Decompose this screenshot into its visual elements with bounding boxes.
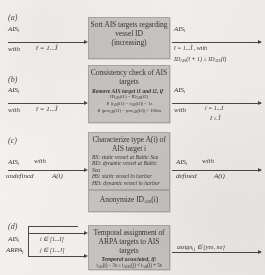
output-label-c-with: with — [202, 157, 214, 165]
output-label-c-symbol: AISi — [176, 158, 187, 168]
arrowhead-c-in — [84, 168, 88, 172]
box-title-line3: (increasing) — [89, 38, 169, 47]
output-label-c-value: A(i) — [214, 172, 225, 180]
output-label-b-symbol: AISi — [174, 86, 185, 96]
arrow-line-a-out — [172, 42, 261, 43]
process-box-temporal-assignment[interactable]: Temporal assignment of ARPA targets to A… — [88, 225, 170, 270]
input-label-c-with: with — [34, 157, 46, 165]
arrow-line-a-in — [8, 42, 86, 43]
arrow-line-d-in1 — [28, 233, 86, 234]
box-eq-3: ∧ |posAIS(i1) − posAIS(i2)| < 100m — [89, 108, 169, 115]
arrow-line-c-out — [172, 170, 261, 171]
input-label-a-with: with — [8, 45, 20, 53]
output-label-a-condition: IDAIS(ĩ + 1) ≥ IDAIS(ĩ) — [174, 55, 226, 65]
input-label-a-symbol: AISĩ — [8, 25, 19, 35]
arrowhead-d-in1 — [84, 231, 88, 235]
arrow-line-b-in — [8, 103, 86, 104]
arrow-top-d-bracket — [28, 226, 78, 227]
box-eq-1: IDAIS(i1) = IDAIS(i2) — [89, 94, 169, 101]
panel-label-d: (d) — [8, 222, 17, 231]
arrowhead-d-in2 — [84, 254, 88, 258]
box-title-line1: Temporal assignment of — [89, 226, 169, 237]
arrowhead-a-in — [84, 40, 88, 44]
input-label-b-range: ĩ = 1...Ĩ — [36, 105, 57, 113]
output-label-b-range: i = 1...I — [205, 104, 223, 112]
input-range-d-arpa: j ∈ [1...J] — [40, 246, 65, 254]
box-type-bd: BD: dynamic vessel at Baltic Sea — [89, 160, 169, 173]
box-title-line1: Consistency check of AIS — [89, 66, 169, 77]
output-label-a-range: ĩ = 1...Ĩ , with — [174, 44, 207, 52]
output-label-c-state: defined — [176, 172, 197, 180]
arrow-line-c-in — [8, 170, 86, 171]
box-title-line1: Characterize type A(i) of — [89, 133, 169, 144]
box-title-line2: targets — [89, 77, 169, 86]
box-title-line2: ARPA targets to AIS targets — [89, 237, 169, 255]
arrowhead-d-out — [258, 250, 262, 254]
arrow-line-d-in2 — [28, 256, 86, 257]
box-title-line2: AIS target i — [89, 144, 169, 153]
arrowhead-b-in — [84, 101, 88, 105]
input-label-c-value: A(i) — [52, 172, 63, 180]
process-box-consistency-check[interactable]: Consistency check of AIS targets Remove … — [88, 65, 170, 123]
input-label-a-range: ĩ = 1...Ĩ — [36, 44, 57, 52]
panel-label-a: (a) — [8, 13, 17, 22]
panel-label-b: (b) — [8, 75, 17, 84]
output-label-b-with: with — [174, 106, 186, 114]
box-eq-temporal: tAIS(i) − 5s ≤ tARPA(j) < tAIS(i) + 5s — [89, 262, 169, 270]
input-label-c-state: undefined — [6, 172, 34, 180]
panel-label-c: (c) — [8, 136, 17, 145]
output-label-a-symbol: AISĩ — [174, 25, 185, 35]
output-label-b-condition: I ≤ Ĩ — [210, 114, 220, 122]
box-title-anonymize: Anonymize IDAIS(i) — [100, 195, 158, 206]
output-label-d-assign: assigni,j ∈ {yes, no} — [177, 243, 225, 253]
input-label-d-ais: AISi — [8, 235, 19, 245]
figure-canvas: (a) Sort AIS targets regarding vessel ID… — [0, 0, 265, 275]
input-label-d-arpa: ARPAj — [6, 246, 23, 256]
arrow-join-d-vertical — [28, 226, 29, 257]
arrowhead-b-out — [258, 101, 262, 105]
process-box-characterize-type[interactable]: Characterize type A(i) of AIS target i B… — [88, 132, 170, 190]
input-range-d-ais: i ∈ [1...I] — [40, 235, 64, 243]
input-label-b-with: with — [8, 106, 20, 114]
input-label-c-symbol: AISi — [8, 158, 19, 168]
box-title-line1: Sort AIS targets regarding — [89, 18, 169, 29]
box-eq-2: ∧ |tAIS(i1) − tAIS(i2)| < 1s — [89, 101, 169, 108]
arrowhead-a-out — [258, 40, 262, 44]
box-title-line2: vessel ID — [89, 29, 169, 38]
arrowhead-c-out — [258, 168, 262, 172]
process-box-sort-ais[interactable]: Sort AIS targets regarding vessel ID (in… — [88, 17, 170, 59]
process-box-anonymize-id[interactable]: Anonymize IDAIS(i) — [88, 190, 170, 212]
input-label-b-symbol: AISĩ — [8, 86, 19, 96]
box-type-hd: HD: dynamic vessel in harbor — [89, 180, 169, 186]
